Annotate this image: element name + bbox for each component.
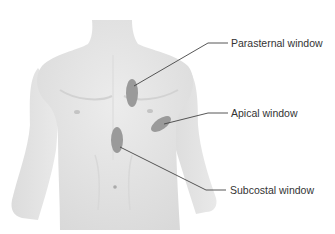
left-nipple <box>74 110 80 114</box>
apical-window-label: Apical window <box>231 107 298 119</box>
right-nipple <box>147 109 153 113</box>
parasternal-window-label: Parasternal window <box>231 37 323 49</box>
parasternal-window-marker <box>126 79 138 107</box>
subcostal-window-marker <box>111 127 123 153</box>
subcostal-window-label: Subcostal window <box>230 184 314 196</box>
torso <box>37 20 193 230</box>
navel <box>113 185 117 189</box>
